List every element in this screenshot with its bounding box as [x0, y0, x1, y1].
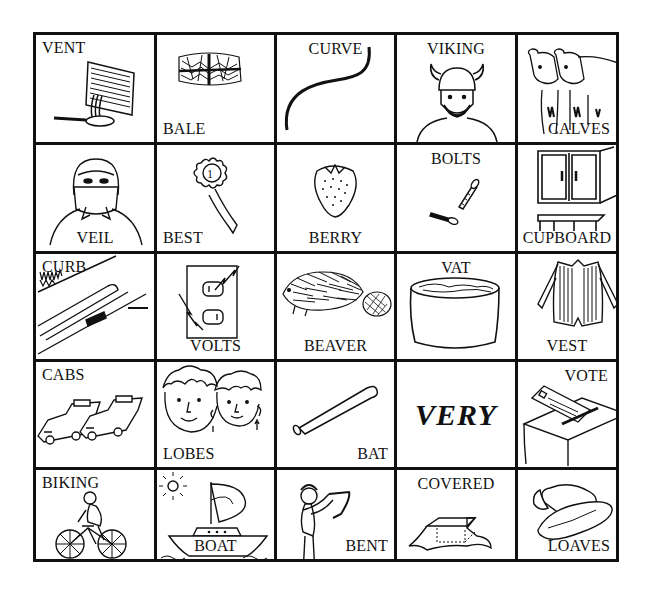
cell-covered: COVERED — [397, 470, 515, 559]
cell-berry: BERRY — [277, 145, 394, 251]
word-label: BERRY — [277, 230, 394, 246]
cell-beaver: BEAVER — [277, 254, 394, 359]
cell-best: 1 BEST — [157, 145, 274, 251]
vat-icon — [397, 254, 515, 359]
word-label: LOAVES — [548, 538, 610, 554]
word-label: VOLTS — [157, 338, 274, 354]
cell-vat: VAT — [397, 254, 515, 359]
cell-very: VERY — [397, 362, 515, 467]
cell-cabs: CABS — [36, 362, 154, 467]
svg-text:1: 1 — [207, 167, 213, 181]
viking-icon — [397, 35, 515, 142]
curb-icon — [36, 254, 154, 359]
cell-viking: VIKING — [397, 35, 515, 142]
picture-word-grid: VENT BALE — [33, 32, 619, 562]
cell-veil: VEIL — [36, 145, 154, 251]
word-label: VERY — [397, 400, 515, 430]
cell-cupboard: CUPBOARD — [518, 145, 616, 251]
cell-bale: BALE — [157, 35, 274, 142]
ballot-box-icon — [518, 362, 616, 467]
cell-volts: VOLTS — [157, 254, 274, 359]
cell-boat: BOAT — [157, 470, 274, 559]
word-label: BEAVER — [277, 338, 394, 354]
covered-box-icon — [397, 470, 515, 559]
cell-curve: CURVE — [277, 35, 394, 142]
cell-biking: BIKING — [36, 470, 154, 559]
cell-vote: VOTE — [518, 362, 616, 467]
curved-line-icon — [277, 35, 394, 142]
word-label: BEST — [163, 230, 203, 246]
word-label: BENT — [345, 538, 388, 554]
cell-lobes: LOBES — [157, 362, 274, 467]
cell-bent: BENT — [277, 470, 394, 559]
word-label: LOBES — [163, 446, 215, 462]
cell-calves: CALVES — [518, 35, 616, 142]
taxi-cabs-icon — [36, 362, 154, 467]
word-label: BOAT — [157, 538, 274, 554]
word-label: CUPBOARD — [518, 230, 616, 246]
cell-loaves: LOAVES — [518, 470, 616, 559]
bolts-icon — [397, 145, 515, 251]
cell-curb: CURB — [36, 254, 154, 359]
word-label: VEIL — [36, 230, 154, 246]
cell-bat: BAT — [277, 362, 394, 467]
word-label: CALVES — [548, 121, 610, 137]
word-label: BAT — [357, 446, 388, 462]
word-label: BALE — [163, 121, 206, 137]
cell-vent: VENT — [36, 35, 154, 142]
vent-and-pan-icon — [36, 35, 154, 142]
cell-bolts: BOLTS — [397, 145, 515, 251]
word-label: VEST — [518, 338, 616, 354]
cyclist-icon — [36, 470, 154, 559]
cell-vest: VEST — [518, 254, 616, 359]
